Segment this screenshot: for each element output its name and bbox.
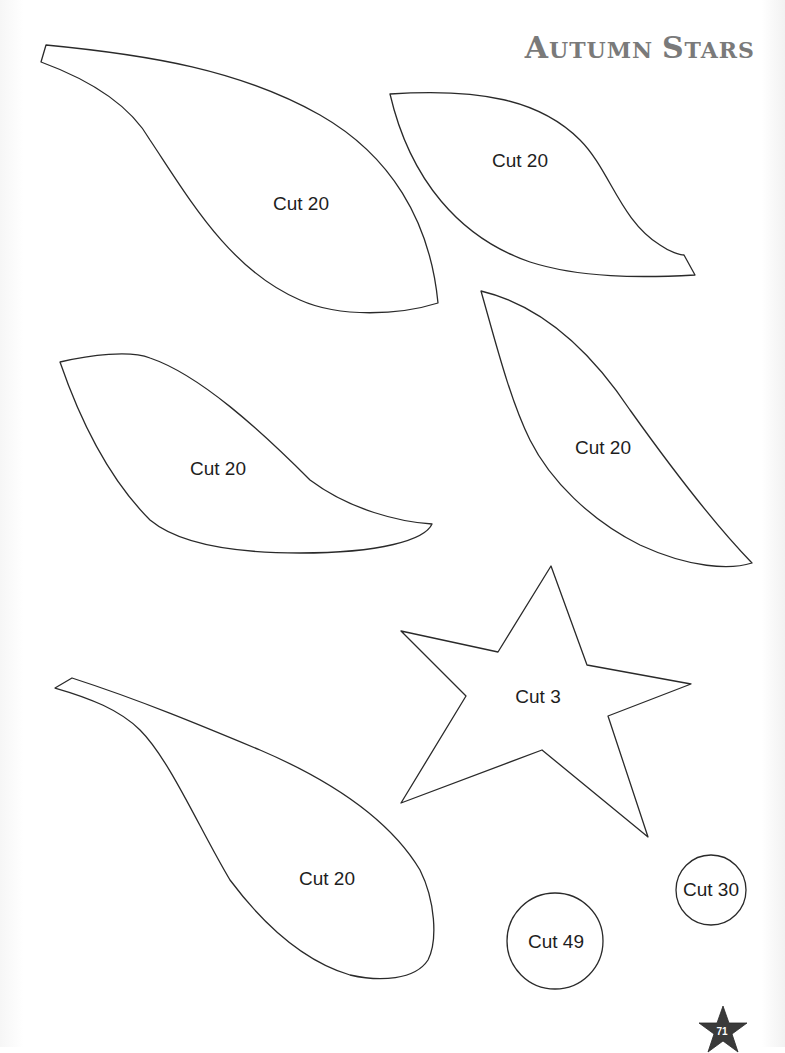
piece-label: Cut 20 — [492, 150, 548, 172]
piece-label: Cut 49 — [528, 931, 584, 953]
page-number: 71 — [716, 1026, 727, 1037]
piece-label: Cut 20 — [299, 868, 355, 890]
piece-label: Cut 20 — [190, 458, 246, 480]
piece-label: Cut 30 — [683, 879, 739, 901]
leaf-large-top-left-outline — [41, 45, 438, 313]
piece-label: Cut 20 — [575, 437, 631, 459]
piece-label: Cut 20 — [273, 193, 329, 215]
leaf-bottom-left-outline — [55, 678, 434, 979]
leaf-top-right-outline — [390, 93, 695, 277]
leaf-middle-left-outline — [60, 354, 432, 553]
piece-label: Cut 3 — [515, 686, 560, 708]
leaf-middle-right-outline — [481, 291, 752, 567]
